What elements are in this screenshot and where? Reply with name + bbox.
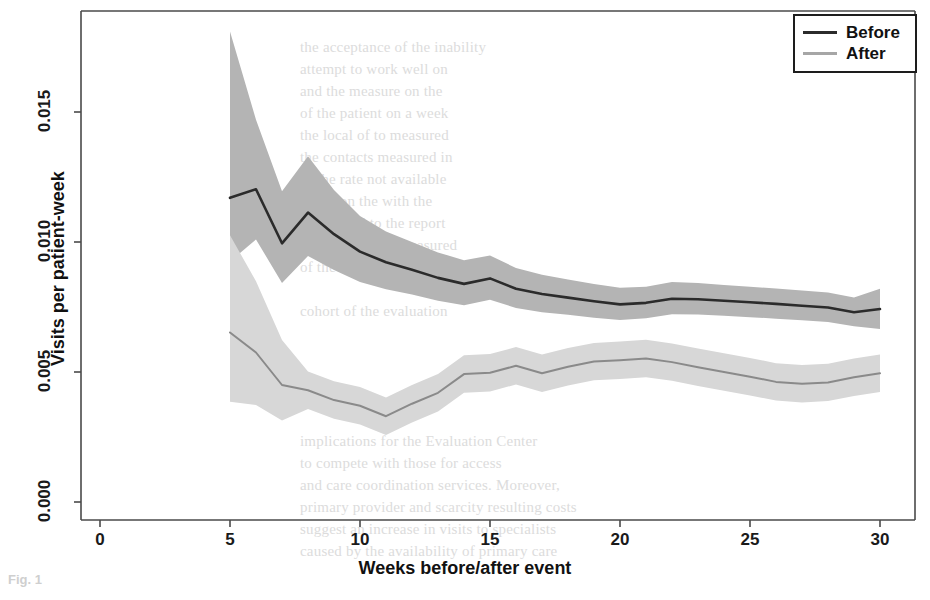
- chart-canvas: [0, 0, 930, 600]
- legend-item-after: After: [803, 43, 907, 64]
- x-tick-label-0: 0: [95, 530, 104, 550]
- legend-label-before: Before: [846, 23, 900, 42]
- x-tick-label-30: 30: [871, 530, 890, 550]
- confidence-band-before: [230, 31, 880, 329]
- chart-legend[interactable]: Before After: [793, 14, 917, 73]
- figure-container: 0510152025300.0000.0050.0100.015 Visits …: [0, 0, 930, 600]
- y-axis-title: Visits per patient-week: [48, 119, 69, 419]
- x-tick-label-25: 25: [741, 530, 760, 550]
- legend-swatch-after: [803, 52, 837, 55]
- x-axis-title: Weeks before/after event: [0, 558, 930, 579]
- x-tick-label-5: 5: [225, 530, 234, 550]
- y-tick-label-0.000: 0.000: [35, 475, 55, 527]
- confidence-bands-group: [230, 31, 880, 435]
- x-tick-label-15: 15: [481, 530, 500, 550]
- axis-ticks-group: [74, 112, 880, 527]
- x-tick-label-20: 20: [611, 530, 630, 550]
- legend-label-after: After: [846, 44, 886, 63]
- legend-item-before: Before: [803, 22, 907, 43]
- x-tick-label-10: 10: [351, 530, 370, 550]
- figure-caption: Fig. 1: [8, 572, 42, 587]
- legend-swatch-before: [803, 31, 837, 34]
